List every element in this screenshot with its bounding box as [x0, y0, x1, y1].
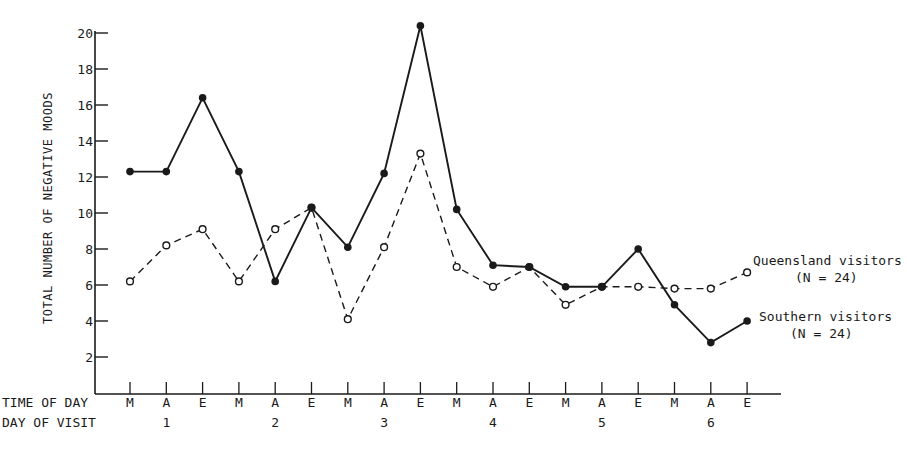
- data-point-filled: [671, 301, 679, 309]
- data-point-filled: [380, 170, 388, 178]
- data-point-open: [671, 285, 678, 292]
- data-point-open: [744, 269, 751, 276]
- data-point-filled: [489, 261, 497, 269]
- time-of-day-label: M: [344, 395, 352, 410]
- y-axis-ticks: 2468101214161820: [77, 26, 108, 365]
- data-point-filled: [235, 168, 243, 176]
- series-queensland-visitors: [127, 150, 751, 322]
- day-of-visit-label: 6: [707, 415, 715, 430]
- legend-queensland: Queensland visitors (N = 24): [753, 253, 902, 285]
- y-tick-label: 6: [85, 278, 93, 293]
- data-point-open: [490, 283, 497, 290]
- time-of-day-label: E: [743, 395, 751, 410]
- data-point-filled: [308, 204, 316, 212]
- time-of-day-label: E: [634, 395, 642, 410]
- legend-southern: Southern visitors (N = 24): [759, 309, 892, 341]
- time-of-day-label: A: [271, 395, 279, 410]
- series-line: [130, 26, 747, 343]
- series-southern-visitors: [126, 22, 751, 346]
- data-point-open: [381, 244, 388, 251]
- day-of-visit-label: 1: [162, 415, 170, 430]
- time-of-day-label: E: [525, 395, 533, 410]
- negative-moods-line-chart: TOTAL NUMBER OF NEGATIVE MOODS 246810121…: [0, 0, 907, 451]
- data-point-open: [163, 242, 170, 249]
- day-of-visit-label: 4: [489, 415, 497, 430]
- data-point-filled: [344, 243, 352, 251]
- time-of-day-row-title: TIME OF DAY: [2, 395, 88, 410]
- data-point-filled: [417, 22, 425, 30]
- time-of-day-label: A: [598, 395, 606, 410]
- data-point-open: [707, 285, 714, 292]
- time-of-day-label: M: [671, 395, 679, 410]
- y-tick-label: 14: [77, 134, 93, 149]
- y-axis-title: TOTAL NUMBER OF NEGATIVE MOODS: [41, 92, 55, 324]
- data-point-filled: [598, 283, 606, 291]
- day-of-visit-label: 3: [380, 415, 388, 430]
- data-point-filled: [707, 339, 715, 347]
- time-of-day-label: M: [453, 395, 461, 410]
- y-tick-label: 16: [77, 98, 93, 113]
- day-of-visit-label: 2: [271, 415, 279, 430]
- time-of-day-label: A: [489, 395, 497, 410]
- legend-queensland-name: Queensland visitors: [753, 253, 902, 268]
- time-of-day-label: M: [235, 395, 243, 410]
- data-point-open: [635, 283, 642, 290]
- time-of-day-label: A: [707, 395, 715, 410]
- y-tick-label: 12: [77, 170, 93, 185]
- y-tick-label: 4: [85, 314, 93, 329]
- data-point-open: [199, 226, 206, 233]
- data-point-filled: [271, 278, 279, 286]
- time-of-day-label: E: [416, 395, 424, 410]
- series-line: [130, 154, 747, 320]
- time-of-day-label: A: [162, 395, 170, 410]
- y-tick-label: 2: [85, 350, 93, 365]
- data-point-filled: [163, 168, 171, 176]
- data-point-open: [344, 316, 351, 323]
- data-point-filled: [526, 263, 534, 271]
- day-of-visit-row-title: DAY OF VISIT: [2, 415, 96, 430]
- data-point-filled: [199, 94, 207, 102]
- data-point-open: [417, 150, 424, 157]
- y-tick-label: 20: [77, 26, 93, 41]
- legend-queensland-n: (N = 24): [795, 270, 858, 285]
- y-tick-label: 10: [77, 206, 93, 221]
- legend-southern-n: (N = 24): [790, 326, 853, 341]
- data-point-filled: [126, 168, 134, 176]
- data-point-open: [127, 278, 134, 285]
- data-point-open: [272, 226, 279, 233]
- day-of-visit-label: 5: [598, 415, 606, 430]
- time-of-day-label: A: [380, 395, 388, 410]
- data-point-open: [236, 278, 243, 285]
- data-point-open: [562, 301, 569, 308]
- data-point-filled: [634, 245, 642, 253]
- y-tick-label: 18: [77, 62, 93, 77]
- time-of-day-label: M: [562, 395, 570, 410]
- data-point-open: [453, 264, 460, 271]
- time-of-day-label: E: [308, 395, 316, 410]
- data-point-filled: [743, 317, 751, 325]
- x-axis-ticks: MAEMAEMAEMAEMAEMAE123456: [126, 382, 751, 430]
- time-of-day-label: M: [126, 395, 134, 410]
- legend-southern-name: Southern visitors: [759, 309, 892, 324]
- time-of-day-label: E: [199, 395, 207, 410]
- y-tick-label: 8: [85, 242, 93, 257]
- data-point-filled: [562, 283, 570, 291]
- data-point-filled: [453, 206, 461, 214]
